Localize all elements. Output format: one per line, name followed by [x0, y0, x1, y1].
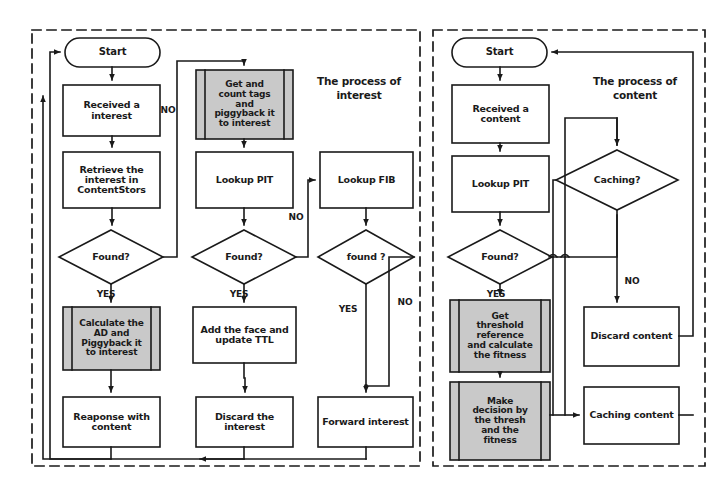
shape-retrieve-cs	[63, 152, 160, 208]
shape-found-pit-c	[448, 230, 552, 284]
shape-start-i	[65, 38, 160, 67]
shape-lookup-pit-c	[452, 156, 549, 212]
shape-lookup-fib	[320, 152, 413, 208]
shape-lookup-pit-i	[196, 152, 293, 208]
shape-found-pit	[192, 230, 296, 284]
shape-discard-c	[584, 307, 679, 366]
shape-get-threshold	[450, 300, 550, 372]
shape-get-count-tags	[196, 70, 293, 139]
shape-caching-c	[584, 387, 679, 444]
shape-make-decision	[450, 382, 550, 460]
shape-received-c	[452, 85, 549, 143]
shape-calc-ad	[63, 307, 160, 370]
flowchart-vector-layer	[0, 0, 723, 494]
shape-found-cs	[59, 230, 163, 284]
shape-response	[63, 397, 160, 447]
shape-start-c	[452, 38, 547, 67]
shape-forward-i	[318, 397, 413, 447]
shape-add-face	[193, 307, 296, 363]
shape-discard-i	[196, 397, 293, 447]
shape-caching-q	[556, 150, 678, 210]
flowchart-canvas: Start Received a interest Retrieve the i…	[0, 0, 723, 494]
shape-received-i	[63, 85, 160, 136]
